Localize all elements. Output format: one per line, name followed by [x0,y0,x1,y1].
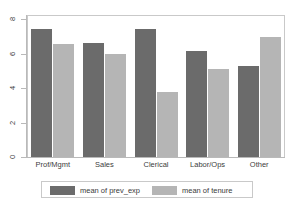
bar-other-tenure [260,37,281,157]
y-tick-label-text: 4 [8,81,18,95]
legend-label: mean of tenure [182,186,232,195]
bar-labor-ops-tenure [208,69,229,157]
legend-item-tenure[interactable]: mean of tenure [152,185,232,196]
y-tick-label: 4 [6,83,20,93]
x-axis-label-other: Other [233,160,285,169]
bar-sales-tenure [105,54,126,158]
y-tick [21,19,26,20]
y-tick-label-text: 6 [8,47,18,61]
legend-swatch-icon [50,186,75,195]
y-tick-label-text: 2 [8,116,18,130]
legend-swatch-icon [152,186,177,195]
bar-labor-ops-prev-exp [186,51,207,157]
y-tick [21,54,26,55]
y-tick-label: 8 [6,14,20,24]
legend-label: mean of prev_exp [80,186,140,195]
bars-layer [27,15,285,157]
y-tick [21,88,26,89]
x-axis-label-sales: Sales [79,160,131,169]
graph-region: 02468 Prof/MgmtSalesClericalLabor/OpsOth… [0,0,292,204]
y-tick-label-text: 8 [8,12,18,26]
y-tick-label: 0 [6,152,20,162]
bar-sales-prev-exp [83,43,104,157]
bar-other-prev-exp [238,66,259,157]
bar-chart: 02468 Prof/MgmtSalesClericalLabor/OpsOth… [0,0,292,204]
y-tick [21,157,26,158]
bar-prof-mgmt-tenure [53,44,74,157]
bar-prof-mgmt-prev-exp [31,29,52,158]
y-tick-label-text: 0 [8,150,18,164]
y-tick-label: 6 [6,49,20,59]
x-axis-label-prof-mgmt: Prof/Mgmt [27,160,79,169]
legend: mean of prev_expmean of tenure [41,181,253,198]
plot-area [27,15,285,158]
x-axis-label-clerical: Clerical [130,160,182,169]
y-tick-label: 2 [6,118,20,128]
legend-item-prev-exp[interactable]: mean of prev_exp [50,185,140,196]
y-tick [21,123,26,124]
bar-clerical-tenure [157,92,178,157]
bar-clerical-prev-exp [135,29,156,157]
x-axis-label-labor-ops: Labor/Ops [182,160,234,169]
